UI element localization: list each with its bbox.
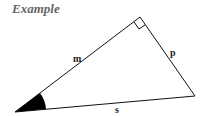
side-p-line — [140, 17, 195, 96]
label-p: p — [170, 47, 176, 58]
angle-wedge-icon — [15, 93, 46, 112]
triangle-diagram: m p s — [0, 0, 205, 116]
label-s: s — [115, 104, 119, 115]
right-angle-marker-icon — [134, 22, 145, 29]
label-m: m — [73, 53, 82, 64]
